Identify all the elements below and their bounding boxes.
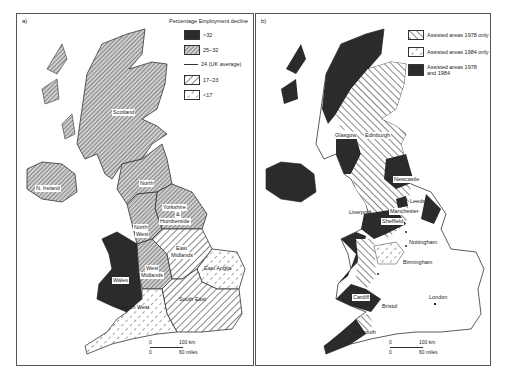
- label-yorkshire-3: Humberside: [159, 218, 191, 225]
- label-wales: Wales: [112, 277, 129, 284]
- legend-item: <17: [184, 90, 212, 100]
- legend-item: Assisted areas 1984 only: [408, 47, 488, 57]
- label-n-ireland: N. Ireland: [35, 185, 61, 192]
- wide-hatch-swatch-icon: [408, 30, 424, 40]
- city-label-glasgow: Glasgow: [334, 132, 357, 139]
- legend-title: Percentage Employment decline: [169, 18, 248, 24]
- city-label-sheffield: Sheffield: [381, 218, 404, 225]
- city-label-newcastle: Newcastle: [393, 176, 420, 183]
- dashed-hatch-swatch-icon: [408, 47, 424, 57]
- label-north-west-2: West: [135, 231, 149, 238]
- map-panel-b: b) Glasgow Edi: [255, 13, 491, 366]
- legend-item: Assisted areas 1978 and 1984: [408, 64, 482, 76]
- city-label-manchester: Manchester: [389, 208, 420, 215]
- city-label-london: London: [428, 294, 448, 301]
- city-label-cardiff: Cardiff: [352, 294, 370, 301]
- city-label-bristol: Bristol: [381, 303, 398, 310]
- label-east-anglia: East Anglia: [203, 265, 233, 272]
- legend-item: 24 (UK average): [184, 61, 241, 67]
- fine-hatch-swatch-icon: [184, 45, 200, 55]
- wide-hatch-swatch-icon: [184, 75, 200, 85]
- legend-item: >32: [184, 30, 212, 40]
- label-west-midlands-2: Midlands: [140, 272, 164, 279]
- label-south-west: South West: [120, 304, 150, 311]
- region-wales: [97, 232, 142, 312]
- solid-swatch-icon: [184, 30, 200, 40]
- city-label-plymouth: Plymouth: [352, 329, 377, 336]
- label-north-west-1: North: [133, 224, 148, 231]
- dashed-hatch-swatch-icon: [184, 90, 200, 100]
- label-scotland: Scotland: [112, 109, 135, 116]
- legend-item: Assisted areas 1978 only: [408, 30, 488, 40]
- label-west-midlands-1: West: [145, 265, 159, 272]
- city-label-birmingham: Birmingham: [402, 259, 433, 266]
- city-label-leeds: Leeds: [409, 198, 426, 205]
- region-n-ireland: [27, 162, 77, 202]
- legend-item: 25–32: [184, 45, 218, 55]
- solid-swatch-icon: [408, 64, 424, 76]
- label-east-midlands-1: East: [175, 245, 188, 252]
- legend-item: 17–23: [184, 75, 218, 85]
- label-yorkshire-2: &: [175, 211, 181, 218]
- city-label-liverpool: Liverpool: [348, 209, 372, 216]
- label-north: North: [139, 180, 154, 187]
- label-yorkshire-1: Yorkshire: [162, 204, 187, 211]
- label-south-east: South East: [178, 296, 207, 303]
- scale-bar: 0 100 km 0 60 miles: [149, 339, 209, 359]
- city-label-edinburgh: Edinburgh: [364, 132, 391, 139]
- line-swatch-icon: [184, 64, 198, 65]
- map-panel-a: a) Scotland N. Ireland North Yorkshire &…: [16, 13, 254, 366]
- city-label-nottingham: Nottingham: [408, 239, 438, 246]
- label-east-midlands-2: Midlands: [170, 252, 194, 259]
- scale-bar: 0 100 km 0 60 miles: [389, 339, 449, 359]
